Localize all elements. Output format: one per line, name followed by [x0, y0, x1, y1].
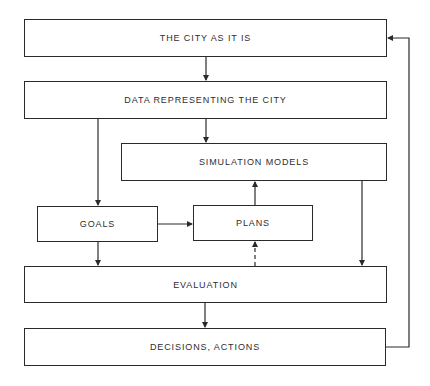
- node-label: PLANS: [236, 218, 270, 228]
- node-label: EVALUATION: [173, 280, 238, 290]
- node-label: SIMULATION MODELS: [199, 157, 309, 167]
- arrow-decisions-to-city-feedback: [386, 38, 409, 347]
- node-label: THE CITY AS IT IS: [160, 33, 252, 43]
- node-label: DATA REPRESENTING THE CITY: [124, 95, 286, 105]
- node-simulation-models: SIMULATION MODELS: [121, 143, 387, 181]
- node-label: DECISIONS, ACTIONS: [150, 342, 260, 352]
- node-city-as-it-is: THE CITY AS IT IS: [24, 19, 387, 57]
- node-plans: PLANS: [193, 205, 313, 241]
- node-label: GOALS: [80, 219, 116, 229]
- node-decisions-actions: DECISIONS, ACTIONS: [24, 328, 386, 366]
- node-data-representing-city: DATA REPRESENTING THE CITY: [24, 81, 387, 119]
- node-evaluation: EVALUATION: [24, 266, 387, 303]
- node-goals: GOALS: [37, 206, 158, 242]
